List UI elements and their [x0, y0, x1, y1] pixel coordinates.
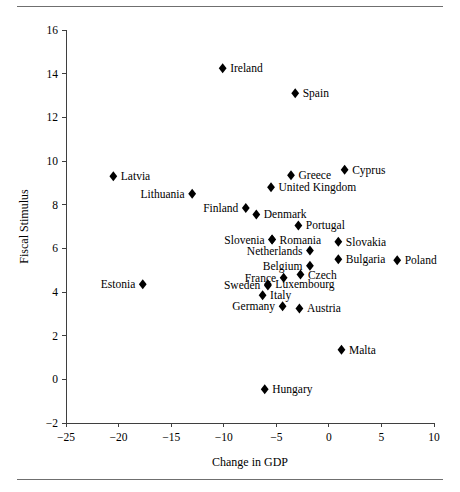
- data-point-marker: [268, 235, 276, 245]
- data-point-marker: [338, 345, 346, 355]
- data-point-label: Ireland: [230, 62, 263, 74]
- data-point-marker: [287, 170, 295, 180]
- x-tick-label: −15: [162, 431, 180, 443]
- figure-container: −20246810121416−25−20−15−10−50510Change …: [0, 0, 460, 492]
- x-tick-label: 5: [379, 431, 385, 443]
- x-tick-label: −20: [110, 431, 128, 443]
- y-tick-label: 10: [47, 155, 59, 167]
- data-point-label: Denmark: [264, 208, 307, 220]
- data-point-label: Poland: [405, 254, 437, 266]
- scatter-plot: −20246810121416−25−20−15−10−50510Change …: [0, 0, 460, 492]
- data-point-label: Lithuania: [141, 188, 185, 200]
- data-point-marker: [252, 209, 260, 219]
- data-point-label: Slovakia: [346, 236, 386, 248]
- y-tick-label: 16: [47, 24, 59, 36]
- data-point-label: Netherlands: [247, 245, 303, 257]
- data-point-label: Cyprus: [352, 164, 386, 177]
- data-point-marker: [259, 290, 267, 300]
- data-point-label: Austria: [307, 302, 341, 314]
- y-tick-label: 4: [52, 286, 58, 298]
- data-point-marker: [306, 246, 314, 256]
- data-point-label: Malta: [349, 344, 376, 356]
- y-tick-label: 2: [52, 330, 58, 342]
- y-tick-label: 6: [52, 242, 58, 254]
- data-point-marker: [291, 88, 299, 98]
- data-point-marker: [109, 171, 117, 181]
- data-point-marker: [279, 301, 287, 311]
- data-point-label: Finland: [203, 202, 238, 214]
- data-point-marker: [139, 279, 147, 289]
- y-tick-label: 12: [47, 111, 59, 123]
- plot-svg: −20246810121416−25−20−15−10−50510Change …: [0, 0, 460, 492]
- data-point-label: Spain: [303, 87, 329, 100]
- data-point-marker: [341, 165, 349, 175]
- data-point-label: Sweden: [224, 279, 261, 291]
- data-point-label: United Kingdom: [279, 181, 357, 194]
- y-axis-title: Fiscal Stimulus: [17, 189, 31, 264]
- x-tick-label: −25: [57, 431, 75, 443]
- data-point-label: Estonia: [101, 278, 136, 290]
- data-point-marker: [296, 303, 304, 313]
- data-point-marker: [334, 237, 342, 247]
- x-tick-label: 0: [326, 431, 332, 443]
- x-axis-title: Change in GDP: [212, 455, 288, 469]
- data-point-marker: [267, 182, 275, 192]
- x-tick-label: −5: [270, 431, 282, 443]
- data-point-label: Germany: [232, 300, 275, 313]
- data-point-label: Portugal: [306, 219, 345, 232]
- x-tick-label: 10: [428, 431, 440, 443]
- x-tick-label: −10: [215, 431, 233, 443]
- y-tick-label: 8: [52, 199, 58, 211]
- data-point-label: Hungary: [272, 383, 312, 396]
- data-point-marker: [334, 254, 342, 264]
- data-point-marker: [188, 189, 196, 199]
- data-point-marker: [219, 63, 227, 73]
- data-point-label: Greece: [299, 169, 332, 181]
- data-point-marker: [242, 203, 250, 213]
- data-point-marker: [294, 220, 302, 230]
- data-point-marker: [261, 384, 269, 394]
- y-tick-label: −2: [46, 417, 58, 429]
- data-point-label: Bulgaria: [346, 253, 386, 266]
- data-point-marker: [393, 255, 401, 265]
- y-tick-label: 0: [52, 373, 58, 385]
- y-tick-label: 14: [47, 68, 59, 80]
- data-point-label: Latvia: [121, 170, 150, 182]
